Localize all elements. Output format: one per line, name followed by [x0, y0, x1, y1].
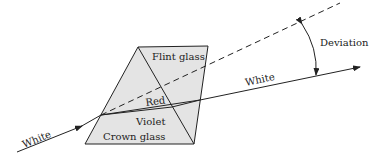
- emergent-ray: [200, 67, 360, 100]
- white-in-label: White: [21, 128, 53, 149]
- deviation-label: Deviation: [320, 37, 369, 48]
- violet-label: Violet: [135, 116, 165, 127]
- prism-diagram: Flint glass Crown glass Red Violet White…: [0, 0, 377, 157]
- flint-glass-label: Flint glass: [152, 51, 205, 62]
- deviation-arc: [302, 24, 316, 75]
- crown-glass-label: Crown glass: [103, 131, 165, 142]
